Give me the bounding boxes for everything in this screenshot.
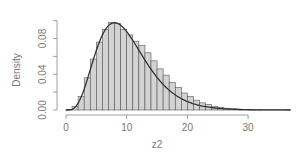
histogram-bar — [102, 30, 108, 110]
histogram-bar — [151, 61, 157, 110]
y-axis-title: Density — [11, 53, 22, 86]
x-axis: 0102030 — [63, 115, 254, 133]
y-tick-label: 0.04 — [37, 64, 48, 84]
histogram-bar — [115, 23, 121, 110]
y-tick-label: 0.00 — [37, 100, 48, 120]
x-tick-label: 0 — [63, 122, 69, 133]
histogram-bar — [108, 22, 114, 110]
histogram-bar — [96, 42, 102, 110]
y-axis: 0.000.040.08 — [37, 21, 57, 120]
histogram-bar — [133, 41, 139, 110]
histogram-bar — [121, 30, 127, 110]
x-tick-label: 30 — [243, 122, 255, 133]
x-tick-label: 20 — [182, 122, 194, 133]
histogram-bar — [78, 97, 84, 110]
histogram-bar — [169, 82, 175, 110]
x-axis-title: z2 — [152, 139, 163, 150]
histogram-bar — [163, 75, 169, 110]
histogram-chart: 0.000.040.08 0102030 Density z2 — [0, 0, 299, 162]
histogram-bar — [157, 69, 163, 110]
histogram-bar — [84, 78, 90, 110]
histogram-bar — [127, 35, 133, 110]
y-tick-label: 0.08 — [37, 28, 48, 48]
x-tick-label: 10 — [121, 122, 133, 133]
